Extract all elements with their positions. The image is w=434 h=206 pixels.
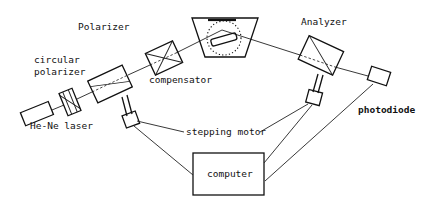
polarizer-shaft-a bbox=[122, 97, 127, 116]
sample-cell bbox=[192, 18, 258, 57]
analyzer-shaft-a bbox=[313, 74, 318, 92]
beam-polarizer-to-compensator bbox=[128, 65, 150, 75]
wire-photodiode-to-computer bbox=[265, 84, 373, 181]
label-photodiode: photodiode bbox=[358, 104, 415, 115]
photodiode bbox=[367, 66, 390, 85]
beam-through-polarizer bbox=[92, 75, 128, 92]
sample-rotation-stage bbox=[207, 21, 241, 55]
polarizer-shaft-b bbox=[127, 95, 132, 114]
label-compensator: compensator bbox=[149, 74, 212, 85]
beam-through-compensator bbox=[150, 53, 176, 65]
stepping-motor-polarizer-body bbox=[122, 111, 140, 128]
label-stepping-motor: stepping motor bbox=[186, 126, 266, 137]
label-laser: He-Ne laser bbox=[30, 120, 93, 131]
label-analyzer: Analyzer bbox=[301, 16, 347, 27]
stepping-motor-polarizer bbox=[122, 111, 140, 128]
polarizer bbox=[88, 65, 133, 103]
label-computer: computer bbox=[207, 168, 253, 179]
wire-polarizer-motor-to-computer bbox=[134, 126, 193, 175]
beam-analyzer-to-photodiode bbox=[335, 67, 368, 76]
analyzer-shaft-b bbox=[318, 75, 323, 93]
sample-holder bbox=[210, 33, 237, 47]
wire-analyzer-motor-to-computer bbox=[264, 105, 312, 163]
stepping-motor-analyzer bbox=[306, 89, 323, 105]
beam-circpol-to-polarizer bbox=[77, 92, 92, 99]
label-polarizer: Polarizer bbox=[78, 21, 130, 32]
beam-compensator-to-sample bbox=[176, 30, 222, 53]
stepping-motor-analyzer-body bbox=[306, 89, 323, 105]
wire-polarizer-motor-to-label bbox=[137, 121, 184, 132]
ellipsometer-diagram: Polarizer circular polarizer compensator… bbox=[0, 0, 434, 206]
analyzer bbox=[298, 36, 343, 76]
circular-polarizer bbox=[59, 88, 81, 115]
compensator bbox=[145, 41, 182, 75]
beam-laser-to-circpol bbox=[52, 105, 64, 110]
beam-sample-to-analyzer bbox=[222, 30, 300, 55]
photodiode-body bbox=[367, 66, 390, 85]
sample-cell-body bbox=[192, 18, 258, 57]
label-circular-polarizer-2: polarizer bbox=[34, 66, 86, 77]
beam-through-analyzer bbox=[300, 55, 335, 67]
label-circular-polarizer-1: circular bbox=[34, 54, 80, 65]
